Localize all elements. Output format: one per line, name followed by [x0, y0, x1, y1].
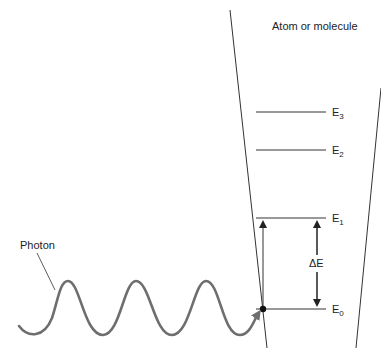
well-right-wall	[356, 88, 381, 348]
delta-e-label: ΔE	[309, 257, 324, 269]
atom-label: Atom or molecule	[272, 20, 358, 32]
energy-level-e0: E0	[256, 303, 344, 318]
svg-text:E1: E1	[332, 212, 344, 227]
svg-text:E0: E0	[332, 303, 344, 318]
photon-leader-line	[37, 253, 55, 290]
ground-state-dot	[260, 306, 266, 312]
well-left-wall	[230, 10, 267, 348]
photon-label: Photon	[20, 239, 55, 251]
energy-diagram: Atom or molecule E3 E2 E1 E0 ΔE Photon	[0, 0, 381, 361]
energy-level-e1: E1	[256, 212, 344, 227]
svg-text:E3: E3	[332, 106, 344, 121]
energy-level-e2: E2	[256, 144, 344, 159]
energy-level-e3: E3	[256, 106, 344, 121]
svg-text:E2: E2	[332, 144, 344, 159]
